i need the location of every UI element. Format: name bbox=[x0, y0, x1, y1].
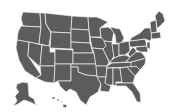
state-new-york[interactable] bbox=[130, 28, 152, 41]
state-south-dakota[interactable] bbox=[71, 29, 90, 43]
state-maine[interactable] bbox=[155, 11, 165, 28]
state-maryland-delaware[interactable] bbox=[136, 46, 148, 52]
us-map-graphic bbox=[0, 0, 170, 112]
state-hawaii[interactable] bbox=[52, 97, 67, 108]
state-new-mexico[interactable] bbox=[54, 64, 71, 83]
state-wyoming[interactable] bbox=[50, 32, 71, 49]
state-florida[interactable] bbox=[116, 83, 141, 102]
state-north-dakota[interactable] bbox=[71, 16, 89, 30]
state-washington[interactable] bbox=[21, 12, 41, 27]
state-kansas[interactable] bbox=[73, 53, 96, 64]
state-colorado[interactable] bbox=[55, 49, 73, 64]
state-arkansas[interactable] bbox=[96, 66, 107, 77]
state-alaska[interactable] bbox=[13, 82, 36, 106]
us-map bbox=[0, 0, 170, 112]
state-new-jersey[interactable] bbox=[147, 42, 150, 49]
state-massachusetts-ct-ri[interactable] bbox=[151, 32, 161, 39]
state-nebraska[interactable] bbox=[71, 42, 93, 53]
